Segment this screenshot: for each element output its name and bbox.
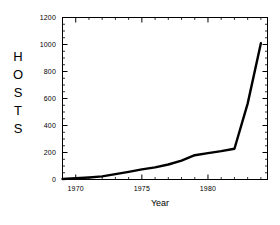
- y-tick-label: 1200: [28, 14, 56, 21]
- y-tick-label: 400: [28, 122, 56, 129]
- y-tick-label: 0: [28, 176, 56, 183]
- y-axis-title: HOSTS: [6, 48, 30, 138]
- y-tick-label: 1000: [28, 41, 56, 48]
- y-axis-title-char: H: [6, 48, 30, 66]
- y-tick-label: 800: [28, 68, 56, 75]
- y-axis-title-char: S: [6, 84, 30, 102]
- y-tick-label: 200: [28, 149, 56, 156]
- x-axis-title: Year: [128, 198, 192, 209]
- y-tick-label: 600: [28, 95, 56, 102]
- y-axis-title-char: O: [6, 66, 30, 84]
- x-tick-label: 1970: [59, 185, 93, 192]
- x-tick-label: 1975: [125, 185, 159, 192]
- y-axis-title-char: S: [6, 120, 30, 138]
- x-tick-label: 1980: [191, 185, 225, 192]
- chart-figure: 020040060080010001200 197019751980 HOSTS…: [0, 0, 280, 225]
- plot-frame: [63, 18, 268, 180]
- y-axis-title-char: T: [6, 102, 30, 120]
